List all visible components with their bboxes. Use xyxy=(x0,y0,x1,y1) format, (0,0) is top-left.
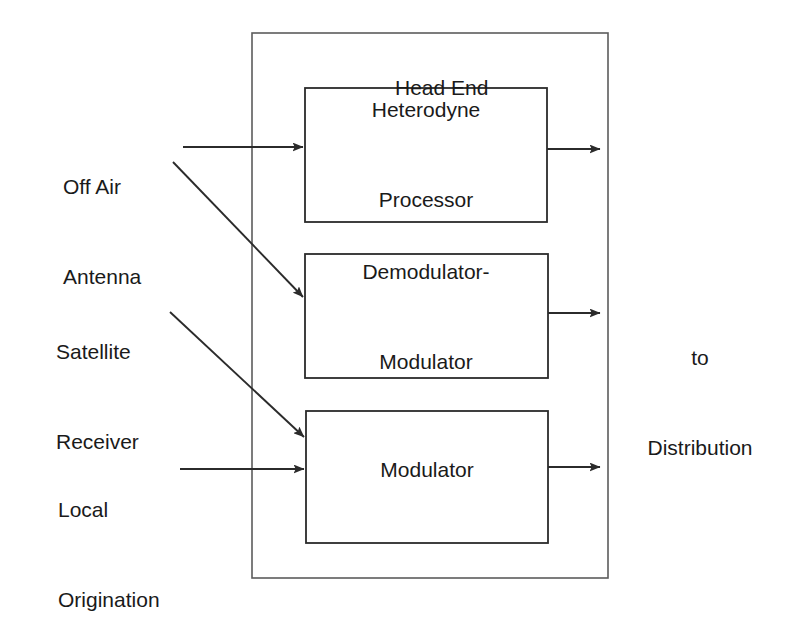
block-label-line2: Modulator xyxy=(362,347,489,377)
output-label-line2: Distribution xyxy=(647,433,752,463)
block-label-line1: Heterodyne xyxy=(372,95,481,125)
output-label-line1: to xyxy=(647,343,752,373)
input-label-line2: Origination xyxy=(58,585,160,615)
block-diagram: Head End Heterodyne Processor Demodulato… xyxy=(0,0,793,617)
input-label-line1: Local xyxy=(58,495,160,525)
input-label-line1: Satellite xyxy=(56,337,139,367)
block-label-modulator: Modulator xyxy=(380,395,473,545)
input-label-local-origination: Local Origination xyxy=(58,435,160,617)
input-label-line1: Off Air xyxy=(63,172,141,202)
block-label-line1: Demodulator- xyxy=(362,257,489,287)
block-label-line1: Modulator xyxy=(380,455,473,485)
output-label-to-distribution: to Distribution xyxy=(647,283,752,523)
